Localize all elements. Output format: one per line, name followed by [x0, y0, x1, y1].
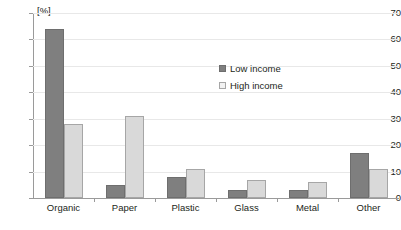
legend-swatch-icon	[219, 82, 226, 89]
legend-item: High income	[219, 77, 283, 94]
bar-group	[277, 13, 338, 198]
bar	[125, 116, 144, 198]
bar	[186, 169, 205, 198]
x-axis-tick-mark	[277, 198, 278, 202]
bar	[308, 182, 327, 198]
x-axis-label: Other	[338, 203, 399, 213]
bar	[45, 29, 64, 198]
x-axis-label: Plastic	[155, 203, 216, 213]
bar-groups	[33, 13, 399, 198]
plot-area	[33, 13, 399, 198]
legend-swatch-icon	[219, 65, 226, 72]
bar-group	[338, 13, 399, 198]
bar-group	[216, 13, 277, 198]
waste-composition-bar-chart: [%] 706050403020100 OrganicPaperPlasticG…	[0, 0, 401, 230]
bar	[289, 190, 308, 198]
bar-group	[155, 13, 216, 198]
x-axis-label: Paper	[94, 203, 155, 213]
x-axis-label: Metal	[277, 203, 338, 213]
bar	[228, 190, 247, 198]
x-axis-tick-mark	[155, 198, 156, 202]
x-axis-tick-mark	[338, 198, 339, 202]
bar-group	[94, 13, 155, 198]
x-axis-label: Glass	[216, 203, 277, 213]
legend-label: Low income	[230, 64, 281, 74]
legend-item: Low income	[219, 60, 283, 77]
bar	[350, 153, 369, 198]
bar	[247, 180, 266, 199]
bar	[64, 124, 83, 198]
x-axis-labels: OrganicPaperPlasticGlassMetalOther	[33, 203, 399, 213]
bar	[369, 169, 388, 198]
chart-legend: Low incomeHigh income	[219, 60, 283, 94]
x-axis-tick-mark	[216, 198, 217, 202]
bar	[167, 177, 186, 198]
legend-label: High income	[230, 81, 283, 91]
x-axis-label: Organic	[33, 203, 94, 213]
x-axis-tick-mark	[94, 198, 95, 202]
bar	[106, 185, 125, 198]
bar-group	[33, 13, 94, 198]
